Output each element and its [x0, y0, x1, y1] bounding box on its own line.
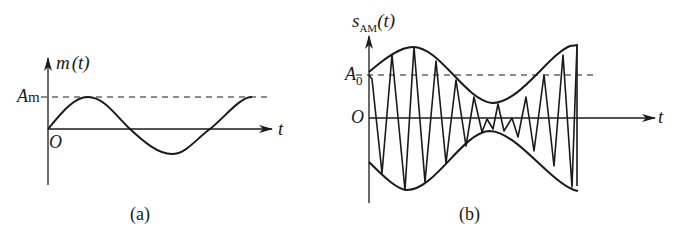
b-caption: (b) — [459, 204, 480, 225]
a-y-arg: (t) — [72, 52, 90, 73]
a-x-axis-label: t — [278, 118, 283, 140]
b-y-axis-label: sAM(t) — [352, 10, 395, 34]
b-x-axis-label: t — [658, 106, 663, 128]
a-origin-label: O — [49, 132, 62, 153]
b-amp-main: A — [345, 64, 356, 84]
b-amp-sub: 0 — [356, 73, 363, 88]
a-amp-sub: m — [28, 89, 40, 105]
b-origin-label: O — [351, 107, 364, 128]
diagram-canvas — [0, 0, 677, 241]
a-caption: (a) — [130, 204, 150, 225]
a-y-func: m — [56, 52, 70, 73]
panel-b — [356, 36, 655, 203]
b-y-arg: (t) — [377, 10, 395, 31]
a-message-signal-curve — [48, 97, 252, 154]
b-amplitude-label: A0 — [345, 64, 363, 89]
a-y-axis-label: m(t) — [56, 52, 90, 74]
b-y-sub: AM — [359, 22, 377, 34]
a-amp-main: A — [17, 86, 28, 106]
a-amplitude-label: Am — [17, 86, 40, 107]
panel-a — [41, 58, 272, 185]
